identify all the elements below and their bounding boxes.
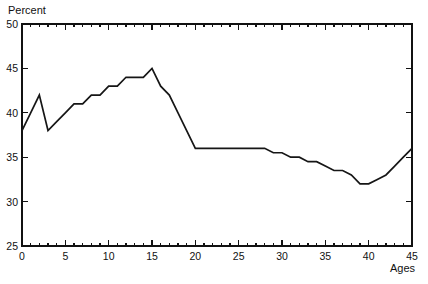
x-tick-label: 45: [406, 250, 418, 262]
y-axis-ticks: [22, 24, 412, 246]
x-tick-label: 0: [19, 250, 25, 262]
y-axis-tick-labels: 253035404550: [6, 18, 18, 252]
y-tick-label: 45: [6, 62, 18, 74]
line-chart-figure: 051015202530354045 253035404550 Percent …: [0, 0, 428, 284]
y-tick-label: 35: [6, 151, 18, 163]
chart-canvas: 051015202530354045 253035404550 Percent …: [0, 0, 428, 284]
axis-frame: [22, 24, 412, 246]
x-tick-label: 5: [62, 250, 68, 262]
x-tick-label: 20: [189, 250, 201, 262]
plot-border: [22, 24, 412, 246]
data-series-line: [22, 68, 412, 183]
x-tick-label: 40: [363, 250, 375, 262]
y-tick-label: 40: [6, 107, 18, 119]
x-axis-title: Ages: [390, 262, 416, 274]
y-tick-label: 30: [6, 196, 18, 208]
x-tick-label: 10: [103, 250, 115, 262]
y-tick-label: 25: [6, 240, 18, 252]
y-axis-title: Percent: [8, 4, 46, 16]
x-tick-label: 35: [319, 250, 331, 262]
y-tick-label: 50: [6, 18, 18, 30]
x-axis-tick-labels: 051015202530354045: [19, 250, 418, 262]
x-axis-ticks: [22, 24, 412, 246]
x-tick-label: 30: [276, 250, 288, 262]
x-tick-label: 25: [233, 250, 245, 262]
x-tick-label: 15: [146, 250, 158, 262]
